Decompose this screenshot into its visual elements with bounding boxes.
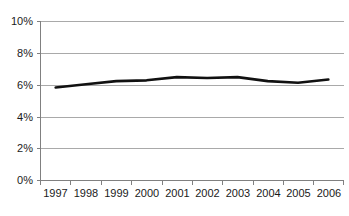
chart-container: 10% 8% 6% 4% 2% 0% 1997 1998 1999 2000 2… xyxy=(0,0,349,216)
y-axis-label-4pct: 4% xyxy=(17,111,33,123)
x-axis-label-2000: 2000 xyxy=(135,187,159,199)
x-axis-label-2005: 2005 xyxy=(286,187,310,199)
y-axis-label-8pct: 8% xyxy=(17,47,33,59)
line-chart: 10% 8% 6% 4% 2% 0% 1997 1998 1999 2000 2… xyxy=(0,0,349,216)
x-axis-label-2004: 2004 xyxy=(256,187,280,199)
y-axis-label-6pct: 6% xyxy=(17,79,33,91)
x-axis-label-2002: 2002 xyxy=(195,187,219,199)
y-axis-label-0pct: 0% xyxy=(17,174,33,186)
x-axis-labels-group: 1997 1998 1999 2000 2001 2002 2003 2004 … xyxy=(43,187,341,199)
y-tick-marks-group xyxy=(37,22,41,181)
x-axis-label-2006: 2006 xyxy=(317,187,341,199)
x-axis-label-1999: 1999 xyxy=(104,187,128,199)
x-tick-marks-group xyxy=(41,181,344,185)
x-axis-label-1997: 1997 xyxy=(43,187,67,199)
y-axis-label-2pct: 2% xyxy=(17,142,33,154)
axes-group xyxy=(41,22,344,181)
y-axis-labels-group: 10% 8% 6% 4% 2% 0% xyxy=(11,15,33,186)
x-axis-label-1998: 1998 xyxy=(74,187,98,199)
x-axis-label-2001: 2001 xyxy=(165,187,189,199)
y-axis-label-10pct: 10% xyxy=(11,15,33,27)
x-axis-label-2003: 2003 xyxy=(226,187,250,199)
